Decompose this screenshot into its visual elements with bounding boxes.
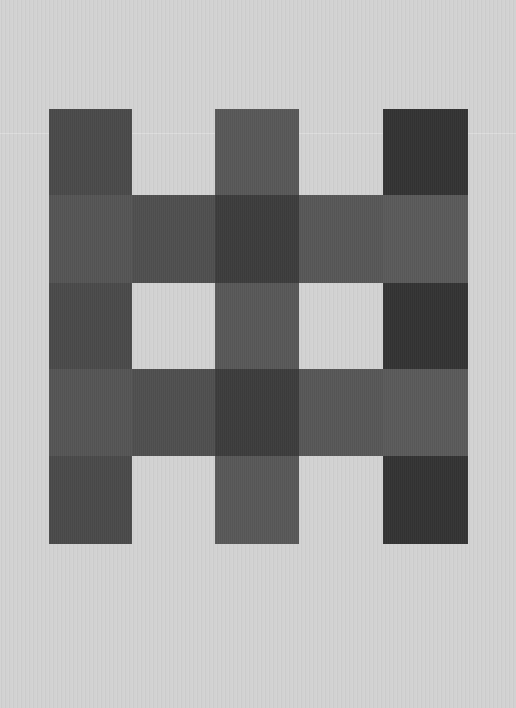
lattice-cell-r1-c1 <box>132 195 215 283</box>
lattice-cell-r0-c4 <box>383 109 468 195</box>
lattice-cell-r1-c2 <box>215 195 299 283</box>
lattice-cell-r3-c2 <box>215 369 299 456</box>
lattice-cell-r2-c4 <box>383 283 468 369</box>
lattice-cell-r4-c0 <box>49 456 132 544</box>
lattice-cell-r4-c4 <box>383 456 468 544</box>
lattice-cell-r1-c3 <box>299 195 383 283</box>
lattice-cell-r4-c2 <box>215 456 299 544</box>
lattice-cell-r3-c0 <box>49 369 132 456</box>
lattice-cell-r3-c1 <box>132 369 215 456</box>
lattice-cell-r0-c0 <box>49 109 132 195</box>
lattice-cell-r2-c0 <box>49 283 132 369</box>
lattice-cell-r3-c3 <box>299 369 383 456</box>
lattice-cell-r1-c0 <box>49 195 132 283</box>
lattice-cell-r3-c4 <box>383 369 468 456</box>
lattice-cell-r1-c4 <box>383 195 468 283</box>
lattice-cell-r0-c2 <box>215 109 299 195</box>
pattern-canvas <box>0 0 516 708</box>
lattice-cell-r2-c2 <box>215 283 299 369</box>
lattice-grid <box>49 109 468 544</box>
